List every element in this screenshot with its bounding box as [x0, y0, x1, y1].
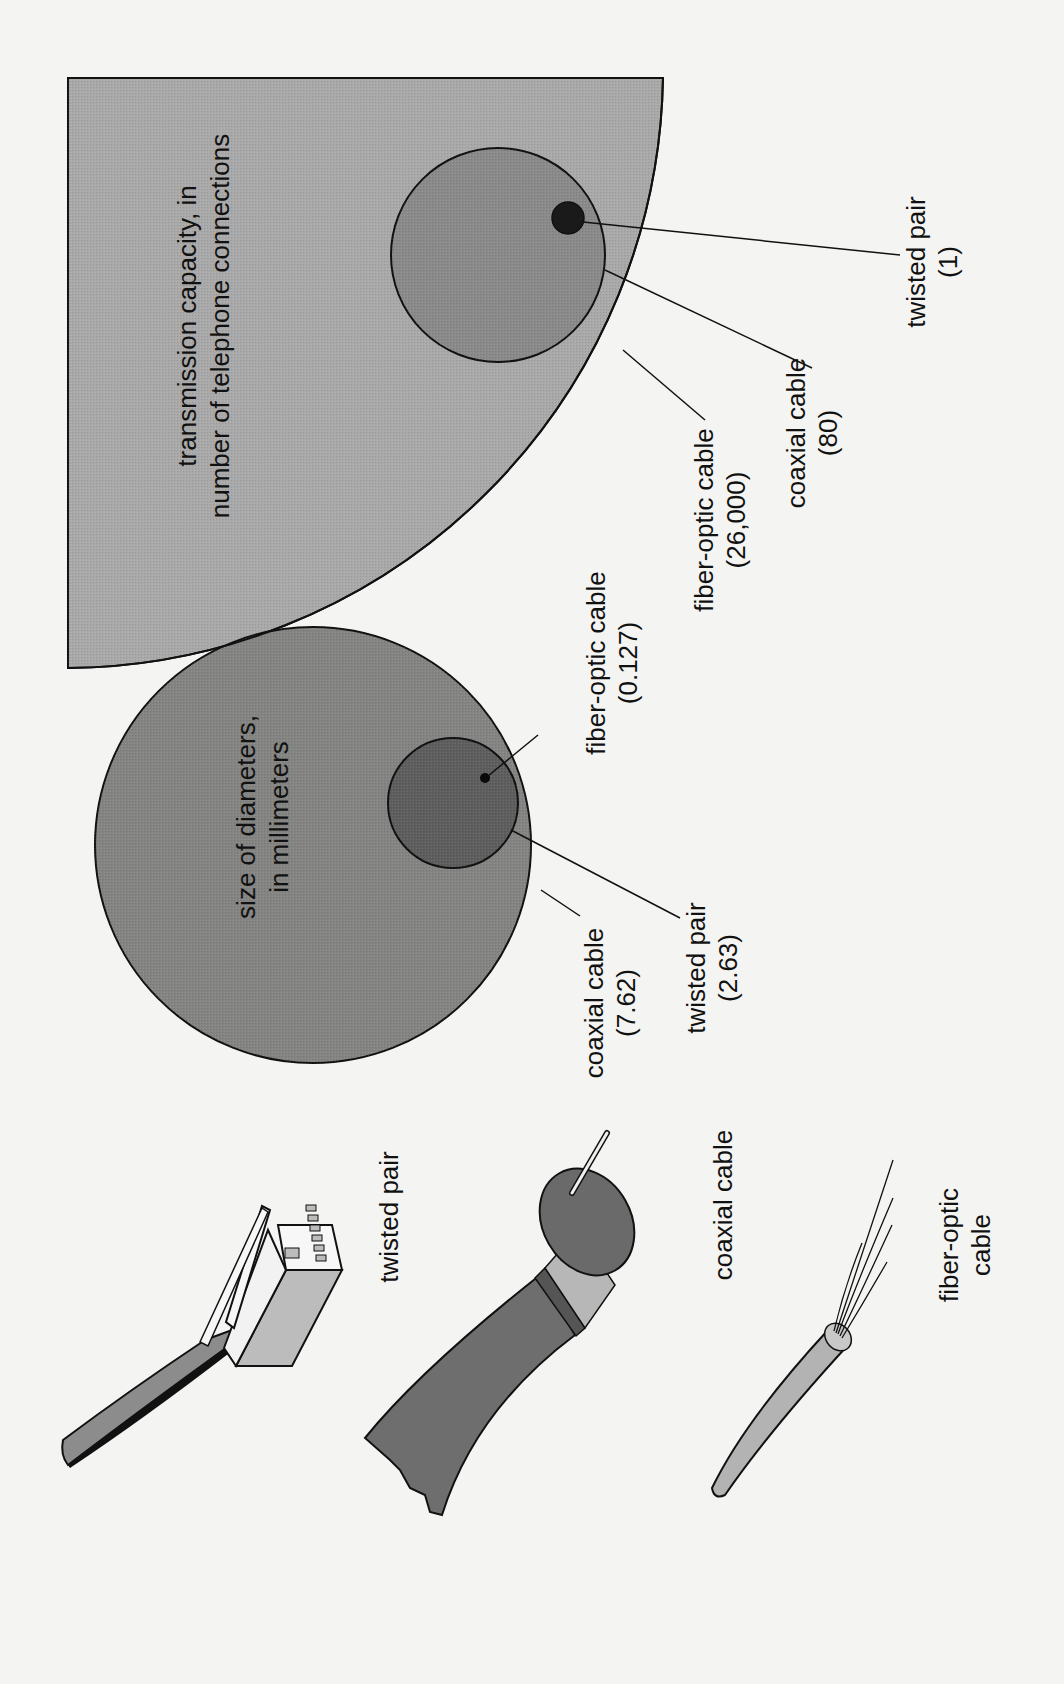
leader-line-diameter-coax: [541, 890, 580, 916]
fiber-optic-jacket-icon: [712, 1330, 848, 1496]
fiber-optic-illustration-label-line2: cable: [966, 1214, 996, 1276]
diameter-dot-fiber: [480, 773, 490, 783]
twisted-pair-illustration-label: twisted pair: [374, 1151, 404, 1283]
diameter-label-fiber: fiber-optic cable: [581, 571, 611, 755]
capacity-panel: transmission capacity, in number of tele…: [68, 78, 963, 668]
capacity-title-line1: transmission capacity, in: [172, 185, 202, 466]
leader-line-capacity-coax: [605, 270, 812, 368]
twisted-pair-illustration: twisted pair: [62, 1151, 404, 1468]
coaxial-illustration: coaxial cable: [365, 1130, 738, 1515]
capacity-value-twisted: (1): [933, 246, 963, 278]
capacity-value-fiber: (26,000): [721, 472, 751, 569]
diameter-title-line2: in millimeters: [264, 741, 294, 893]
leader-line-capacity-fiber: [623, 350, 705, 420]
cable-comparison-diagram: transmission capacity, in number of tele…: [0, 0, 1064, 1684]
diameter-title-line1: size of diameters,: [231, 715, 261, 919]
capacity-value-coax: (80): [813, 410, 843, 456]
diameter-value-twisted: (2.63): [713, 934, 743, 1002]
diameter-value-coax: (7.62): [611, 969, 641, 1037]
optical-fibers-icon: [834, 1160, 893, 1338]
capacity-title-line2: number of telephone connections: [205, 134, 235, 519]
coaxial-illustration-label: coaxial cable: [708, 1130, 738, 1280]
leader-line-diameter-twisted: [511, 830, 680, 918]
fiber-optic-illustration-label-line1: fiber-optic: [934, 1188, 964, 1302]
diameter-label-twisted: twisted pair: [681, 902, 711, 1034]
capacity-label-fiber: fiber-optic cable: [689, 428, 719, 612]
diameter-label-coax: coaxial cable: [579, 928, 609, 1078]
capacity-label-twisted: twisted pair: [901, 196, 931, 328]
fiber-optic-illustration: fiber-optic cable: [712, 1160, 996, 1496]
twisted-pair-cable-icon: [62, 1330, 232, 1465]
capacity-label-coax: coaxial cable: [781, 358, 811, 508]
coaxial-cable-jacket-icon: [365, 1275, 575, 1515]
capacity-dot-twisted-pair: [552, 202, 584, 234]
diameter-value-fiber: (0.127): [613, 622, 643, 704]
